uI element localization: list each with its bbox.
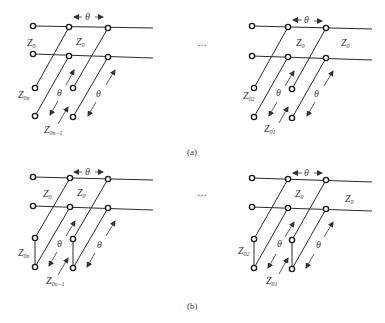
panel-a-right-network: θ θ θ Z0 Z0 Z02 Z01: [243, 14, 372, 135]
port-node: [285, 176, 290, 181]
z-stub-label: Z0n: [18, 247, 30, 259]
port-node: [105, 25, 110, 30]
caption-b: (b): [187, 301, 198, 311]
port-node: [285, 24, 290, 29]
panel-a-left-network: θ θ θ Z0 Z0 Z0n Z0n−1: [18, 11, 153, 136]
port-node: [285, 205, 290, 210]
theta-label: θ: [316, 239, 321, 250]
z-stub-label: Z02: [238, 245, 250, 257]
arrow-icon: [324, 71, 333, 86]
arrow-icon: [307, 102, 315, 116]
stub-node: [32, 85, 37, 90]
z-stub-label: Z01: [264, 123, 276, 135]
theta-label: θ: [314, 88, 319, 99]
port-node: [323, 25, 328, 30]
port-node: [67, 204, 72, 209]
stub-node: [289, 86, 294, 91]
port-node: [249, 53, 254, 58]
theta-label: θ: [96, 88, 101, 99]
theta-label: θ: [277, 238, 282, 249]
arrow-icon: [50, 101, 58, 115]
port-node: [66, 24, 71, 29]
arrow-icon: [88, 102, 96, 116]
stub-node: [32, 113, 37, 118]
port-node: [30, 174, 35, 179]
arrow-icon: [279, 258, 288, 274]
stub-line: [35, 56, 69, 116]
theta-label: θ: [57, 87, 62, 98]
port-node: [66, 53, 71, 58]
z-label: Z0: [43, 188, 52, 200]
stub-line: [35, 178, 70, 238]
arrow-icon: [87, 253, 95, 267]
z-label: Z0: [296, 37, 305, 49]
port-node: [323, 206, 328, 211]
stub-node: [289, 266, 294, 271]
theta-label: θ: [304, 167, 309, 178]
theta-label: θ: [85, 11, 90, 22]
arrow-icon: [58, 258, 68, 275]
arrow-icon: [58, 107, 68, 124]
arrow-icon: [66, 221, 75, 236]
top-line: [33, 177, 153, 180]
bottom-line: [33, 206, 153, 210]
stub-line: [73, 57, 108, 117]
z-stub-label: Z02: [243, 90, 255, 102]
top-line: [252, 178, 372, 182]
port-node: [323, 55, 328, 60]
arrow-icon: [279, 107, 288, 123]
arrow-icon: [285, 222, 294, 237]
stub-node: [70, 114, 75, 119]
arrow-icon: [49, 252, 57, 266]
port-node: [105, 54, 110, 59]
panel-b-right-network: θ θ θ Z0 Z0 Z02 Z01: [238, 167, 372, 287]
stub-line: [292, 58, 326, 118]
arrow-icon: [106, 221, 115, 236]
port-node: [67, 175, 72, 180]
stub-line: [254, 57, 288, 117]
port-node: [30, 203, 35, 208]
z-stub-label: Z0n−1: [44, 124, 63, 136]
theta-label: θ: [97, 239, 102, 250]
stub-node: [70, 265, 75, 270]
arrow-icon: [285, 71, 294, 86]
stub-node: [289, 115, 294, 120]
port-node: [285, 54, 290, 59]
stub-line: [35, 27, 69, 88]
port-node: [323, 177, 328, 182]
stub-node: [251, 85, 256, 90]
stub-node: [251, 114, 256, 119]
stub-node: [32, 235, 37, 240]
port-node: [30, 23, 35, 28]
caption-a: (a): [187, 147, 197, 157]
stub-line: [254, 208, 288, 268]
z-label: Z0: [76, 36, 85, 48]
arrow-icon: [268, 254, 276, 268]
z-label: Z0: [341, 37, 350, 49]
z-label: Z0: [77, 187, 86, 199]
ellipsis: …: [197, 187, 207, 198]
z-label: Z0: [27, 37, 36, 49]
stub-line: [73, 208, 108, 268]
stub-line: [35, 207, 70, 267]
z-stub-label: Z0n: [18, 89, 30, 101]
filter-diagram: θ θ θ Z0 Z0 Z0n Z0n−1 … θ: [0, 0, 385, 323]
top-line: [252, 26, 372, 29]
theta-label: θ: [57, 238, 62, 249]
stub-node: [251, 236, 256, 241]
stub-node: [32, 264, 37, 269]
stub-node: [251, 265, 256, 270]
z-label: Z0: [345, 193, 354, 205]
port-node: [30, 51, 35, 56]
arrow-icon: [306, 254, 314, 268]
ellipsis: …: [197, 37, 207, 48]
arrow-icon: [106, 70, 115, 85]
arrow-icon: [269, 102, 277, 116]
theta-label: θ: [85, 166, 90, 177]
port-node: [249, 204, 254, 209]
theta-label: θ: [276, 87, 281, 98]
z-label: Z0: [295, 188, 304, 200]
port-node: [105, 176, 110, 181]
arrow-icon: [324, 222, 333, 237]
stub-node: [70, 85, 75, 90]
